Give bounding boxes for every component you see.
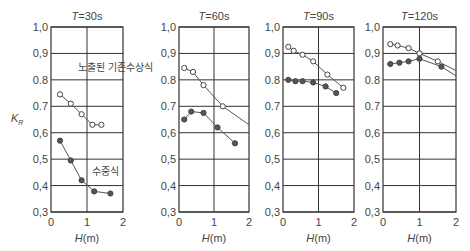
x-tick-label: 1	[84, 216, 90, 228]
marker-filled-circle	[286, 77, 291, 82]
series-line-exposed	[184, 68, 249, 125]
y-tick-label: 1,0	[161, 21, 176, 33]
x-tick-label: 1	[416, 216, 422, 228]
marker-filled-circle	[323, 84, 328, 89]
marker-open-circle	[291, 48, 296, 53]
y-tick-label: 0,6	[265, 127, 280, 139]
y-tick-label: 0,9	[265, 47, 280, 59]
marker-open-circle	[300, 52, 305, 57]
marker-filled-circle	[300, 79, 305, 84]
panel-t90s: 0,30,40,50,60.70.80,91,0012H(m)T=90s	[265, 10, 357, 244]
marker-open-circle	[388, 42, 393, 47]
legend-submerged-label: 수중식	[92, 163, 119, 178]
y-tick-label: 0,3	[365, 206, 380, 218]
x-tick-label: 0	[380, 216, 386, 228]
marker-open-circle	[286, 44, 291, 49]
marker-open-circle	[435, 59, 440, 64]
marker-open-circle	[68, 101, 73, 106]
x-axis-label: H(m)	[306, 232, 330, 244]
x-tick-label: 0	[48, 216, 54, 228]
x-tick-label: 2	[120, 216, 126, 228]
panel-t120s: 0,30,40,50,60.70.80,91,0012H(m)T=120s	[365, 10, 459, 244]
y-tick-label: 0,4	[161, 180, 176, 192]
y-tick-label: 0.8	[33, 74, 48, 86]
y-tick-label: 0,5	[265, 153, 280, 165]
y-tick-label: 0.7	[161, 100, 176, 112]
panel-t30s: 0,30,40,50,60.70.80,91,0012H(m)T=30s	[33, 10, 126, 244]
marker-open-circle	[99, 122, 104, 127]
series-line-exposed	[60, 94, 101, 124]
x-tick-label: 2	[246, 216, 252, 228]
y-tick-label: 1,0	[365, 21, 380, 33]
series-line-exposed	[390, 44, 456, 70]
x-tick-label: 2	[351, 216, 357, 228]
marker-filled-circle	[68, 158, 73, 163]
marker-open-circle	[311, 59, 316, 64]
marker-filled-circle	[189, 109, 194, 114]
x-tick-label: 1	[315, 216, 321, 228]
x-tick-label: 0	[280, 216, 286, 228]
y-tick-label: 1,0	[265, 21, 280, 33]
marker-open-circle	[417, 51, 422, 56]
marker-open-circle	[341, 85, 346, 90]
y-tick-label: 0.7	[265, 100, 280, 112]
y-axis-label: KR	[11, 112, 23, 126]
marker-filled-circle	[311, 80, 316, 85]
y-tick-label: 0,6	[365, 127, 380, 139]
marker-filled-circle	[334, 90, 339, 95]
y-tick-label: 0,3	[265, 206, 280, 218]
y-tick-label: 0,5	[33, 153, 48, 165]
marker-filled-circle	[201, 110, 206, 115]
y-tick-label: 0,6	[161, 127, 176, 139]
x-tick-label: 2	[453, 216, 459, 228]
marker-open-circle	[182, 65, 187, 70]
marker-open-circle	[90, 122, 95, 127]
marker-open-circle	[57, 92, 62, 97]
y-tick-label: 0,9	[33, 47, 48, 59]
marker-filled-circle	[388, 61, 393, 66]
marker-filled-circle	[57, 138, 62, 143]
marker-filled-circle	[397, 60, 402, 65]
y-tick-label: 0,9	[161, 47, 176, 59]
y-tick-label: 0,3	[161, 206, 176, 218]
x-tick-label: 0	[176, 216, 182, 228]
y-tick-label: 0.8	[365, 74, 380, 86]
panel-title: T=90s	[303, 10, 334, 22]
x-axis-label: H(m)	[407, 232, 431, 244]
marker-filled-circle	[79, 178, 84, 183]
marker-open-circle	[190, 69, 195, 74]
y-tick-label: 0,9	[365, 47, 380, 59]
legend-exposed-label: 노출된 기존수상식	[78, 59, 153, 74]
marker-open-circle	[325, 72, 330, 77]
series-line-submerged	[184, 112, 235, 144]
marker-filled-circle	[406, 59, 411, 64]
x-axis-label: H(m)	[75, 232, 99, 244]
y-tick-label: 0,4	[365, 180, 380, 192]
marker-open-circle	[395, 43, 400, 48]
marker-open-circle	[406, 46, 411, 51]
marker-filled-circle	[182, 117, 187, 122]
marker-filled-circle	[92, 189, 97, 194]
y-tick-label: 1,0	[33, 21, 48, 33]
marker-filled-circle	[417, 56, 422, 61]
panel-title: T=120s	[401, 10, 439, 22]
marker-filled-circle	[215, 125, 220, 130]
y-tick-label: 0.7	[33, 100, 48, 112]
marker-open-circle	[220, 104, 225, 109]
y-tick-label: 0.7	[365, 100, 380, 112]
marker-filled-circle	[232, 141, 237, 146]
y-axis-label-sub: R	[18, 119, 23, 126]
chart-figure: 0,30,40,50,60.70.80,91,0012H(m)T=30s0,30…	[0, 0, 470, 251]
panel-title: T=60s	[199, 10, 230, 22]
marker-filled-circle	[439, 64, 444, 69]
marker-filled-circle	[108, 191, 113, 196]
y-tick-label: 0,5	[161, 153, 176, 165]
x-axis-label: H(m)	[202, 232, 226, 244]
x-tick-label: 1	[211, 216, 217, 228]
panel-title: T=30s	[72, 10, 103, 22]
y-tick-label: 0.8	[265, 74, 280, 86]
panel-t60s: 0,30,40,50,60.70.80,91,0012H(m)T=60s	[161, 10, 252, 244]
y-tick-label: 0,4	[265, 180, 280, 192]
y-tick-label: 0,5	[365, 153, 380, 165]
y-tick-label: 0.8	[161, 74, 176, 86]
